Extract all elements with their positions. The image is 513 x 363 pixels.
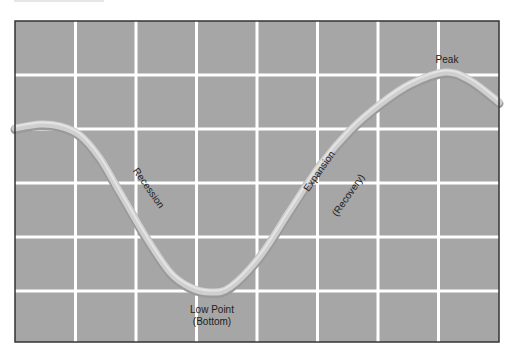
low-point-sublabel: (Bottom)	[193, 316, 231, 327]
business-cycle-diagram: Recession Low Point (Bottom) Expansion (…	[0, 0, 513, 363]
diagram-canvas: Recession Low Point (Bottom) Expansion (…	[0, 0, 513, 363]
peak-label: Peak	[436, 54, 460, 65]
low-point-label: Low Point	[190, 304, 234, 315]
